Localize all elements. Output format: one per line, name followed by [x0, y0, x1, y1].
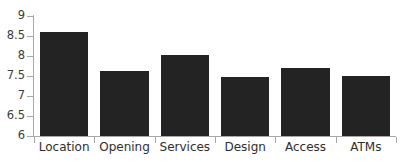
y-tick-label-8: 8	[0, 50, 25, 62]
y-tick-5	[27, 36, 34, 37]
y-tick-label-6: 6	[0, 130, 25, 142]
x-label-services: Services	[155, 141, 215, 154]
y-tick-label-7: 7	[0, 90, 25, 102]
x-tick-edge-6	[396, 137, 397, 143]
plot-area	[34, 16, 396, 136]
bar-services	[161, 55, 209, 136]
bar-chart: 66.577.588.59 LocationOpeningServicesDes…	[0, 0, 402, 162]
x-label-access: Access	[275, 141, 335, 154]
bar-location	[40, 32, 88, 136]
y-tick-4	[27, 56, 34, 57]
x-label-design: Design	[215, 141, 275, 154]
x-label-location: Location	[34, 141, 94, 154]
y-tick-6	[27, 16, 34, 17]
y-tick-3	[27, 76, 34, 77]
y-tick-label-8.5: 8.5	[0, 30, 25, 42]
bar-atms	[342, 76, 390, 136]
y-tick-label-7.5: 7.5	[0, 70, 25, 82]
bar-design	[221, 77, 269, 136]
y-tick-2	[27, 96, 34, 97]
y-tick-label-9: 9	[0, 10, 25, 22]
x-label-atms: ATMs	[336, 141, 396, 154]
bar-opening	[100, 71, 148, 136]
y-tick-label-6.5: 6.5	[0, 110, 25, 122]
y-tick-1	[27, 116, 34, 117]
y-tick-0	[27, 136, 34, 137]
x-label-opening: Opening	[94, 141, 154, 154]
bar-access	[281, 68, 329, 136]
